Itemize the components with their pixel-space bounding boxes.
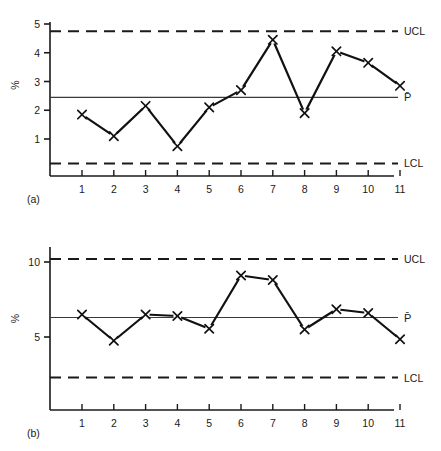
data-point-marker (300, 325, 308, 333)
x-tick-label: 6 (238, 417, 244, 429)
x-tick-label: 11 (395, 417, 406, 429)
data-point-marker (205, 103, 213, 111)
y-axis-title: % (9, 314, 21, 323)
data-point-marker (364, 59, 372, 67)
y-tick-label: 3 (34, 76, 40, 88)
x-tick-label: 5 (206, 417, 212, 429)
y-tick-label: 2 (34, 104, 40, 116)
data-point-marker (269, 36, 277, 44)
data-series-line (82, 276, 400, 341)
x-tick-label: 10 (362, 183, 374, 195)
panel-a: 12345%1234567891011UCLLCLP̄(a) (9, 18, 425, 205)
x-tick-label: 9 (333, 183, 339, 195)
data-point-marker (300, 109, 308, 117)
ucl-label: UCL (404, 25, 425, 37)
data-point-marker (332, 305, 340, 313)
x-tick-label: 3 (143, 417, 149, 429)
data-point-marker (364, 309, 372, 317)
x-tick-label: 1 (79, 183, 85, 195)
x-tick-label: 7 (270, 417, 276, 429)
data-point-marker (173, 142, 181, 150)
control-chart-figure: 12345%1234567891011UCLLCLP̄(a)510%123456… (0, 0, 441, 451)
data-point-marker (396, 335, 404, 343)
data-point-marker (173, 312, 181, 320)
data-point-marker (78, 310, 86, 318)
x-tick-label: 4 (174, 417, 180, 429)
control-chart-svg: 12345%1234567891011UCLLCLP̄(a)510%123456… (0, 0, 441, 451)
data-point-marker (269, 276, 277, 284)
x-tick-label: 7 (270, 183, 276, 195)
x-tick-label: 5 (206, 183, 212, 195)
ucl-label: UCL (404, 253, 425, 265)
data-point-marker (110, 132, 118, 140)
data-point-marker (205, 325, 213, 333)
data-point-marker (332, 47, 340, 55)
center-line-label: P̄ (404, 91, 411, 103)
panel-label-b: (b) (27, 427, 40, 439)
panel-b: 510%1234567891011UCLLCLP̄(b) (9, 247, 425, 439)
data-point-marker (141, 102, 149, 110)
data-point-marker (78, 110, 86, 118)
x-tick-label: 6 (238, 183, 244, 195)
x-tick-label: 1 (79, 417, 85, 429)
x-tick-label: 11 (395, 183, 406, 195)
x-tick-label: 10 (362, 417, 374, 429)
data-point-marker (237, 86, 245, 94)
x-tick-label: 8 (302, 417, 308, 429)
x-tick-label: 9 (333, 417, 339, 429)
data-point-marker (141, 310, 149, 318)
y-tick-label: 4 (34, 47, 40, 59)
x-tick-label: 2 (111, 183, 117, 195)
data-point-marker (110, 337, 118, 345)
y-tick-label: 10 (28, 256, 40, 268)
lcl-label: LCL (404, 372, 423, 384)
y-axis-title: % (9, 80, 21, 89)
center-line-label: P̄ (404, 312, 411, 324)
panel-label-a: (a) (27, 193, 40, 205)
lcl-label: LCL (404, 157, 423, 169)
y-tick-label: 5 (34, 18, 40, 30)
y-tick-label: 5 (34, 331, 40, 343)
y-tick-label: 1 (34, 133, 40, 145)
x-tick-label: 8 (302, 183, 308, 195)
x-tick-label: 3 (143, 183, 149, 195)
data-point-marker (396, 82, 404, 90)
x-tick-label: 2 (111, 417, 117, 429)
data-point-marker (237, 271, 245, 279)
x-tick-label: 4 (174, 183, 180, 195)
